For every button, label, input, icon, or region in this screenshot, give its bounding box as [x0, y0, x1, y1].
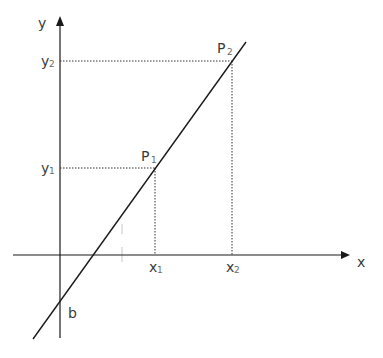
function-line — [33, 42, 246, 339]
y-axis-label: y — [38, 15, 46, 31]
p2-subscript: 2 — [227, 47, 233, 57]
x2-subscript: 2 — [234, 265, 240, 275]
x-axis-arrow-icon — [341, 251, 350, 259]
x1-subscript: 1 — [157, 265, 163, 275]
p2-label: P — [217, 40, 225, 56]
y1-subscript: 1 — [49, 166, 55, 176]
x-axis-label: x — [357, 254, 365, 270]
p1-label: P — [141, 148, 149, 164]
y2-subscript: 2 — [49, 59, 55, 69]
y-axis-arrow-icon — [56, 16, 64, 26]
intercept-label: b — [68, 305, 77, 321]
p1-subscript: 1 — [151, 155, 157, 165]
diagram-canvas: y x y 2 y 1 P 2 P 1 x 1 x 2 b — [0, 0, 383, 358]
